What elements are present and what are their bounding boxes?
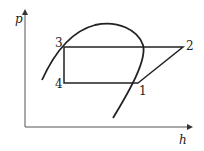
- cycle-path: [64, 47, 183, 83]
- y-axis-label: p: [15, 13, 23, 25]
- diagram-canvas: [0, 0, 204, 151]
- ph-diagram: p h 3 2 4 1: [0, 0, 204, 151]
- point-label-1: 1: [139, 85, 147, 97]
- point-label-3: 3: [55, 37, 63, 49]
- point-label-4: 4: [55, 78, 63, 90]
- point-label-2: 2: [186, 40, 194, 52]
- x-axis-label: h: [179, 134, 187, 146]
